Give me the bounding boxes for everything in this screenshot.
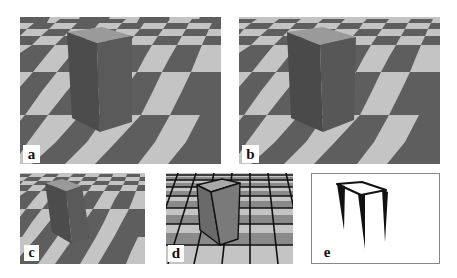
box-object <box>287 27 356 132</box>
figure-panel-b: b <box>239 17 440 164</box>
box-edge-sketch <box>337 182 388 249</box>
panel-label-b: b <box>242 145 259 163</box>
grid-scene-d <box>166 173 293 264</box>
figure-panel-e: e <box>311 173 440 264</box>
figure-panel-d: d <box>166 173 293 264</box>
checkerboard-scene-a <box>20 17 221 164</box>
panel-label-a: a <box>23 145 40 163</box>
checkerboard-scene-b <box>239 17 440 164</box>
panel-label-d: d <box>168 245 184 262</box>
box-object <box>67 27 132 132</box>
figure-panel-c: c <box>20 173 145 264</box>
panel-label-c: c <box>24 245 39 261</box>
panel-label-e: e <box>320 244 334 261</box>
figure-panel-a: a <box>20 17 221 164</box>
